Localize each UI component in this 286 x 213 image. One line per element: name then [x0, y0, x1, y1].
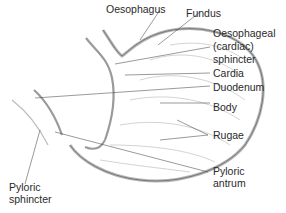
label-rugae: Rugae — [213, 129, 244, 141]
label-duodenum: Duodenum — [213, 81, 264, 93]
leader-lines — [25, 10, 210, 184]
label-pyloric-antrum-line2: antrum — [213, 177, 246, 189]
label-fundus: Fundus — [186, 7, 221, 19]
label-sphincter-line1: Oesophageal — [213, 27, 275, 39]
label-body: Body — [213, 101, 237, 113]
label-pyloric-sphincter-line2: sphincter — [9, 193, 52, 205]
label-pyloric-sphincter-line1: Pyloric — [9, 181, 41, 193]
label-pyloric-antrum-line1: Pyloric — [213, 165, 245, 177]
label-oesophagus: Oesophagus — [106, 3, 166, 15]
label-sphincter-line2: (cardiac) — [213, 40, 254, 52]
label-cardia: Cardia — [213, 67, 244, 79]
label-sphincter-line3: sphincter — [213, 53, 256, 65]
